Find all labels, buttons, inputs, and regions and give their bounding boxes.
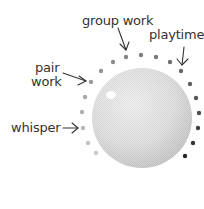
playtime-arrow-icon [177, 47, 188, 65]
level-dot [89, 80, 93, 84]
level-dot [81, 126, 85, 130]
label-playtime: playtime [149, 28, 204, 42]
level-dot [154, 55, 158, 59]
level-dot [94, 151, 98, 155]
level-dot [194, 96, 198, 100]
level-dot [83, 95, 87, 99]
label-pair-work-line1: pair [35, 61, 59, 75]
level-dot [191, 141, 195, 145]
dial-texture [92, 68, 192, 168]
pair-work-arrow-icon [63, 73, 86, 85]
group-work-arrow-icon [118, 28, 129, 50]
label-pair-work-line2: work [31, 75, 62, 89]
level-dot [124, 55, 128, 59]
level-dot [197, 111, 201, 115]
level-dot [99, 69, 103, 73]
level-dot [139, 53, 143, 57]
level-dot [179, 69, 183, 73]
level-dot [86, 141, 90, 145]
level-dot [196, 126, 200, 130]
label-group-work: group work [82, 14, 153, 28]
level-dot [188, 82, 192, 86]
noise-level-diagram: group work playtime pair work whisper [0, 0, 204, 209]
whisper-arrow-icon [63, 123, 78, 133]
dial-highlight [106, 91, 116, 99]
level-dot [183, 154, 187, 158]
level-dot [111, 60, 115, 64]
level-dot [80, 110, 84, 114]
level-dot [168, 60, 172, 64]
label-whisper: whisper [11, 121, 60, 135]
